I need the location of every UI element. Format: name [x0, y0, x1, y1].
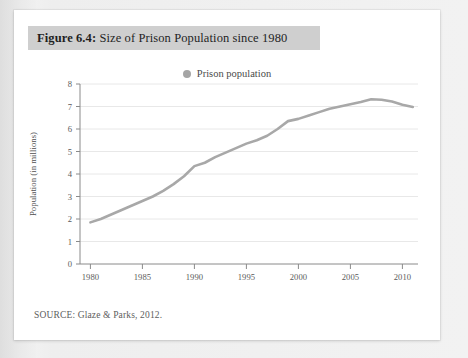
y-tick-label-4: 4	[68, 169, 73, 179]
y-axis: 012345678	[68, 79, 80, 269]
y-tick-label-2: 2	[68, 214, 72, 224]
y-tick-label-8: 8	[68, 79, 72, 89]
line-chart: 012345678 1980198519901995200020052010 P…	[22, 76, 434, 298]
x-axis: 1980198519901995200020052010	[80, 264, 418, 282]
x-tick-label-1980: 1980	[82, 272, 99, 282]
figure-title-text: Size of Prison Population since 1980	[96, 31, 287, 45]
series-line-0	[90, 99, 412, 222]
x-tick-label-1990: 1990	[186, 272, 203, 282]
y-tick-label-1: 1	[68, 237, 72, 247]
data-series	[90, 99, 412, 222]
page-title: Figure 6.4: Size of Prison Population si…	[37, 31, 287, 46]
x-tick-label-2005: 2005	[342, 272, 359, 282]
grid-lines	[80, 84, 418, 242]
x-tick-label-1995: 1995	[238, 272, 255, 282]
x-tick-label-1985: 1985	[134, 272, 151, 282]
x-tick-label-2000: 2000	[290, 272, 307, 282]
y-tick-label-3: 3	[68, 192, 72, 202]
chart-canvas: 012345678 1980198519901995200020052010 P…	[22, 76, 434, 298]
figure-card: Figure 6.4: Size of Prison Population si…	[14, 10, 440, 340]
figure-title-band: Figure 6.4: Size of Prison Population si…	[28, 26, 320, 50]
y-tick-label-5: 5	[68, 147, 72, 157]
source-note: SOURCE: Glaze & Parks, 2012.	[34, 310, 162, 320]
y-tick-label-0: 0	[68, 259, 72, 269]
y-tick-label-7: 7	[68, 102, 73, 112]
x-tick-label-2010: 2010	[394, 272, 411, 282]
y-axis-title: Population (in millions)	[28, 132, 38, 216]
figure-number-label: Figure 6.4:	[37, 31, 96, 45]
y-tick-label-6: 6	[68, 124, 73, 134]
